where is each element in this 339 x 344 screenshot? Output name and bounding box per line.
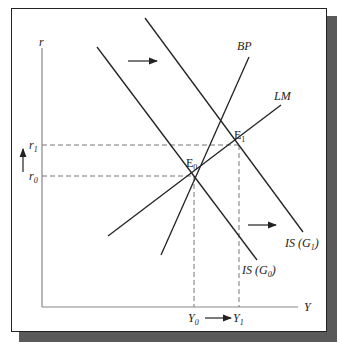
bp-curve bbox=[161, 57, 249, 255]
bp-label: BP bbox=[237, 39, 252, 53]
y-axis-label: r bbox=[39, 35, 44, 49]
y0-label: Y0 bbox=[188, 311, 199, 327]
x-axis-label: Y bbox=[304, 300, 312, 314]
e1-label: E1 bbox=[234, 128, 245, 144]
r1-label: r1 bbox=[29, 138, 38, 154]
lm-label: LM bbox=[273, 89, 292, 103]
is-g1-label: IS (G1) bbox=[284, 236, 319, 252]
is-g0-curve bbox=[97, 47, 257, 260]
is-g1-curve bbox=[145, 18, 303, 232]
e0-label: E0 bbox=[186, 156, 197, 172]
r0-label: r0 bbox=[29, 169, 38, 185]
is-g0-label: IS (G0) bbox=[241, 263, 276, 279]
y1-label: Y1 bbox=[233, 311, 244, 327]
is-lm-bp-diagram: r Y BP LM IS (G1) IS (G0) E0 E1 r1 r0 Y0… bbox=[0, 0, 339, 344]
